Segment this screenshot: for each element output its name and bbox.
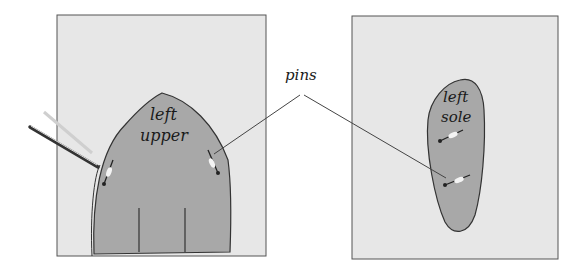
left-sole-label-line1: left <box>443 88 469 106</box>
left-sole-label-line2: sole <box>441 108 472 126</box>
left-upper-label-line2: upper <box>140 126 189 145</box>
pins-callout-label: pins <box>285 66 317 84</box>
illustration: left upper left sole pins <box>0 0 587 271</box>
left-upper-label-line1: left <box>150 105 178 124</box>
pinning-diagram: left upper left sole pins <box>0 0 587 271</box>
